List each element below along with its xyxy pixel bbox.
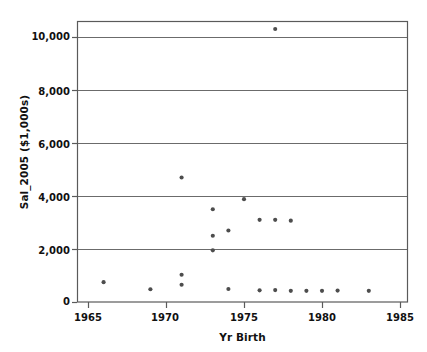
plot-area (0, 0, 427, 352)
data-point (258, 218, 262, 222)
data-point (148, 287, 152, 291)
plot-border (78, 22, 408, 303)
data-point (180, 273, 184, 277)
data-point (102, 280, 106, 284)
data-point (320, 289, 324, 293)
data-point (211, 207, 215, 211)
data-point (226, 228, 230, 232)
data-point (180, 175, 184, 179)
scatter-chart: Sal_2005 ($1,000s) Yr Birth 0 2,000 4,00… (0, 0, 427, 352)
data-point (273, 27, 277, 31)
data-points (102, 27, 371, 293)
data-point (273, 288, 277, 292)
plot-frame (78, 22, 408, 303)
data-point (242, 197, 246, 201)
data-point (289, 289, 293, 293)
gridlines (77, 38, 408, 250)
data-point (211, 234, 215, 238)
data-point (367, 289, 371, 293)
axis-ticks (72, 38, 401, 309)
data-point (180, 283, 184, 287)
data-point (211, 248, 215, 252)
data-point (258, 288, 262, 292)
data-point (289, 219, 293, 223)
data-point (304, 289, 308, 293)
data-point (273, 218, 277, 222)
data-point (226, 287, 230, 291)
data-point (336, 289, 340, 293)
